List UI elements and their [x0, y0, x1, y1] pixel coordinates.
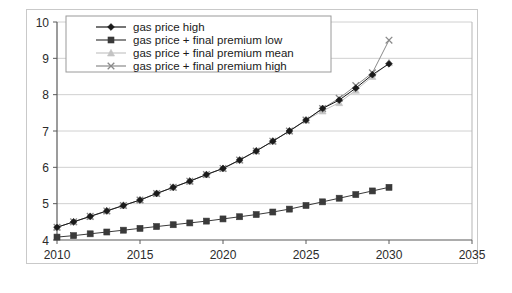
series-marker-square [386, 184, 392, 190]
series-marker-square [203, 218, 209, 224]
y-axis-tick-label: 6 [42, 161, 49, 175]
x-axis-tick-label: 2025 [293, 248, 320, 262]
legend-label-diamond: gas price high [133, 21, 205, 33]
series-marker-diamond [336, 97, 343, 104]
series-marker-square [303, 202, 309, 208]
y-axis-tick-label: 9 [42, 52, 49, 66]
series-marker-square [71, 233, 77, 239]
series-line-triangle [57, 63, 389, 228]
legend-label-triangle: gas price + final premium mean [133, 47, 294, 59]
y-axis-tick-label: 7 [42, 125, 49, 139]
series-marker-square [253, 212, 259, 218]
legend-marker-square [108, 37, 114, 43]
series-marker-square [270, 209, 276, 215]
series-line-diamond [57, 64, 389, 228]
series-marker-square [286, 206, 292, 212]
legend-label-square: gas price + final premium low [133, 34, 283, 46]
series-marker-square [220, 216, 226, 222]
series-marker-square [336, 195, 342, 201]
y-axis-tick-label: 5 [42, 197, 49, 211]
series-marker-square [369, 188, 375, 194]
series-marker-square [353, 192, 359, 198]
x-axis-tick-label: 2015 [127, 248, 154, 262]
x-axis-tick-label: 2035 [459, 248, 486, 262]
series-marker-square [170, 222, 176, 228]
x-axis-tick-label: 2010 [44, 248, 71, 262]
series-marker-square [104, 229, 110, 235]
series-marker-square [237, 214, 243, 220]
series-marker-square [120, 227, 126, 233]
series-marker-square [154, 224, 160, 230]
line-chart: 45678910201020152020202520302035gas pric… [0, 0, 512, 293]
y-axis-tick-label: 4 [42, 234, 49, 248]
series-marker-square [137, 225, 143, 231]
series-marker-diamond [386, 60, 393, 67]
x-axis-tick-label: 2020 [210, 248, 237, 262]
series-marker-square [54, 234, 60, 240]
x-axis-tick-label: 2030 [376, 248, 403, 262]
series-marker-square [87, 231, 93, 237]
y-axis-tick-label: 10 [36, 16, 50, 30]
y-axis-tick-label: 8 [42, 88, 49, 102]
legend-label-x: gas price + final premium high [133, 60, 287, 72]
series-marker-square [187, 220, 193, 226]
series-marker-square [320, 199, 326, 205]
